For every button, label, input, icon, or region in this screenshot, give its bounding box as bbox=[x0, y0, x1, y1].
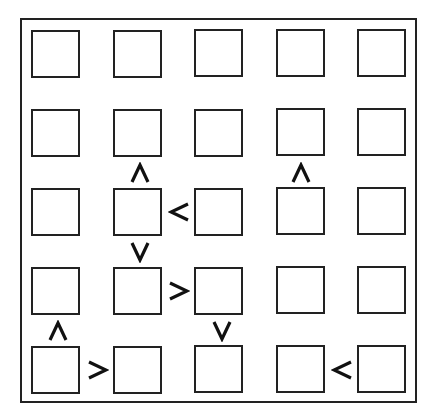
less-than-icon bbox=[168, 201, 190, 223]
greater-than-icon bbox=[87, 359, 109, 381]
constraint-up-r2c4-r3c4 bbox=[286, 158, 316, 188]
cell-r5-c5[interactable] bbox=[357, 345, 406, 393]
caret-up-icon bbox=[290, 162, 312, 184]
cell-r1-c2[interactable] bbox=[113, 30, 162, 78]
cell-r2-c3[interactable] bbox=[194, 109, 243, 157]
cell-r4-c3[interactable] bbox=[194, 267, 243, 315]
cell-r3-c5[interactable] bbox=[357, 187, 406, 235]
cell-r4-c4[interactable] bbox=[276, 266, 325, 314]
cell-r4-c5[interactable] bbox=[357, 266, 406, 314]
less-than-icon bbox=[331, 359, 353, 381]
cell-r1-c3[interactable] bbox=[194, 29, 243, 77]
constraint-down-r4c3-r5c3 bbox=[207, 316, 237, 346]
cell-r3-c2[interactable] bbox=[113, 188, 162, 236]
cell-r1-c4[interactable] bbox=[276, 29, 325, 77]
cell-r5-c3[interactable] bbox=[194, 345, 243, 393]
constraint-less-r5c4-r5c5 bbox=[327, 355, 357, 385]
cell-r1-c5[interactable] bbox=[357, 29, 406, 77]
constraint-greater-r5c1-r5c2 bbox=[83, 355, 113, 385]
greater-than-icon bbox=[168, 280, 190, 302]
constraint-up-r4c1-r5c1 bbox=[43, 316, 73, 346]
constraint-greater-r4c2-r4c3 bbox=[164, 276, 194, 306]
cell-r5-c4[interactable] bbox=[276, 345, 325, 393]
cell-r2-c4[interactable] bbox=[276, 108, 325, 156]
cell-r5-c2[interactable] bbox=[113, 346, 162, 394]
cell-r2-c2[interactable] bbox=[113, 109, 162, 157]
cell-r2-c5[interactable] bbox=[357, 108, 406, 156]
caret-down-icon bbox=[129, 241, 151, 263]
cell-r3-c4[interactable] bbox=[276, 187, 325, 235]
constraint-less-r3c2-r3c3 bbox=[164, 197, 194, 227]
constraint-down-r3c2-r4c2 bbox=[125, 237, 155, 267]
cell-r3-c3[interactable] bbox=[194, 188, 243, 236]
cell-r3-c1[interactable] bbox=[31, 188, 80, 236]
caret-down-icon bbox=[211, 320, 233, 342]
caret-up-icon bbox=[47, 320, 69, 342]
cell-r1-c1[interactable] bbox=[31, 30, 80, 78]
cell-r4-c2[interactable] bbox=[113, 267, 162, 315]
constraint-up-r2c2-r3c2 bbox=[125, 158, 155, 188]
caret-up-icon bbox=[129, 162, 151, 184]
cell-r2-c1[interactable] bbox=[31, 109, 80, 157]
cell-r4-c1[interactable] bbox=[31, 267, 80, 315]
cell-r5-c1[interactable] bbox=[31, 346, 80, 394]
